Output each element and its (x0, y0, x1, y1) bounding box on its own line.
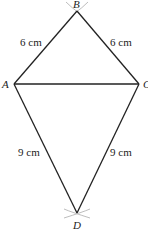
vertex-label-c: C (143, 78, 148, 90)
length-label-ab: 6 cm (20, 36, 42, 48)
length-label-ad: 9 cm (18, 146, 40, 158)
vertex-label-b: B (73, 0, 80, 10)
vertex-label-a: A (1, 78, 9, 90)
vertex-label-d: D (72, 219, 81, 231)
length-label-bc: 6 cm (110, 36, 132, 48)
length-label-cd: 9 cm (110, 146, 132, 158)
kite-diagram: B A C D 6 cm 6 cm 9 cm 9 cm (0, 0, 148, 232)
construction-arcs-d (64, 209, 90, 218)
